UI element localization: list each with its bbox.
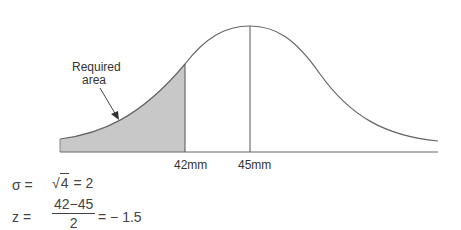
sqrt-radicand: 4: [60, 173, 70, 191]
required-label-line2: area: [82, 73, 106, 87]
z-rhs: = − 1.5: [98, 210, 142, 224]
z-lhs: z =: [12, 210, 31, 224]
z-denominator: 2: [52, 214, 95, 230]
z-fraction: 42−45 2: [52, 197, 95, 230]
sqrt-symbol: √: [52, 175, 60, 191]
sigma-sqrt-expression: √4 = 2: [52, 176, 93, 190]
x-label-45mm: 45mm: [238, 159, 271, 171]
required-area-label: Required area: [72, 61, 116, 87]
x-label-42mm: 42mm: [174, 159, 207, 171]
annotation-arrow-shaft: [100, 88, 116, 115]
z-numerator: 42−45: [52, 197, 95, 214]
required-label-line1: Required: [72, 60, 121, 74]
sigma-lhs: σ =: [12, 178, 33, 192]
sigma-rhs: = 2: [73, 175, 93, 191]
arrow-head-icon: [111, 111, 119, 120]
square-root: √4: [52, 176, 69, 190]
